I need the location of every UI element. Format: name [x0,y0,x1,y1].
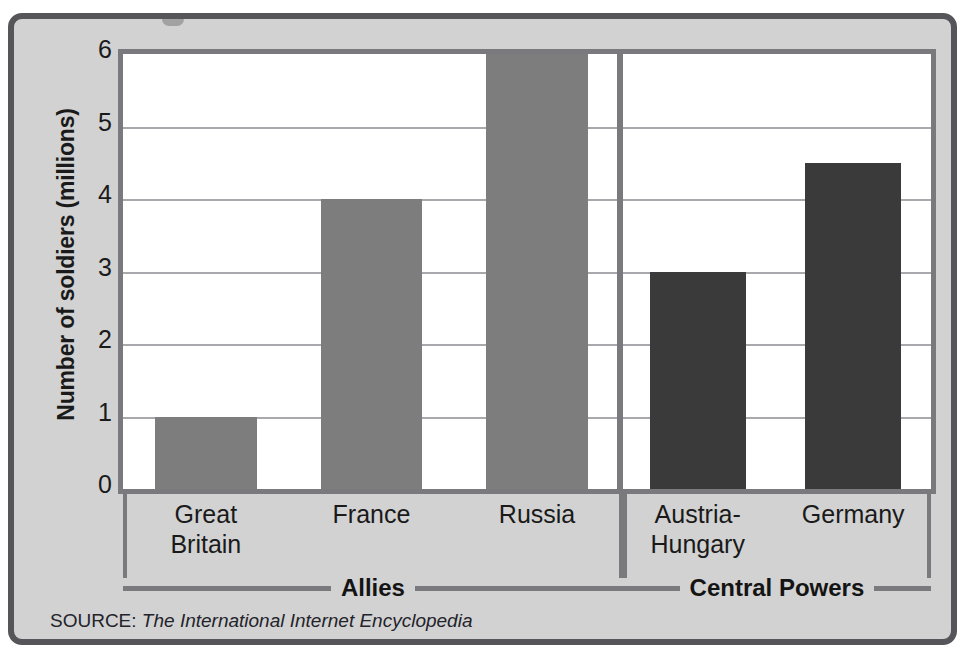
source-prefix: SOURCE: [50,610,137,631]
group-label-central-powers: Central Powers [623,571,931,605]
group-rule-right [415,586,623,591]
y-axis-tick-2: 2 [72,327,112,352]
group-rule-left [623,586,680,591]
y-axis-tick-0: 0 [72,472,112,497]
cropped-title-fragment [162,19,184,26]
category-label-great-britain: GreatBritain [123,500,289,559]
plot-area [118,49,936,494]
source-title: The International Internet Encyclopedia [142,610,473,631]
y-axis-tick-1: 1 [72,399,112,424]
bar-russia [486,54,588,489]
group-label-allies: Allies [123,571,623,605]
category-label-russia: Russia [454,500,620,530]
category-label-france: France [289,500,455,530]
group-name: Central Powers [680,574,875,602]
bars-layer [123,54,931,489]
bar-france [321,199,423,489]
category-label-germany: Germany [775,500,931,530]
category-label-band: GreatBritainFranceRussiaAustria-HungaryG… [118,494,936,578]
group-rule-left [123,586,331,591]
source-note: SOURCE: The International Internet Encyc… [50,610,472,632]
y-axis-tick-5: 5 [72,109,112,134]
y-axis-tick-labels: 6543210 [72,44,112,494]
y-axis-tick-4: 4 [72,182,112,207]
chart-figure-panel: Number of soldiers (millions) 6543210 Gr… [8,13,957,645]
category-label-austria-hungary: Austria-Hungary [620,500,776,559]
group-rule-right [874,586,931,591]
group-name: Allies [331,574,415,602]
group-bracket-row: AlliesCentral Powers [118,571,936,605]
y-axis-tick-6: 6 [72,37,112,62]
bar-great-britain [155,417,257,490]
bar-germany [805,163,901,489]
bar-austria-hungary [650,272,746,490]
y-axis-tick-3: 3 [72,254,112,279]
